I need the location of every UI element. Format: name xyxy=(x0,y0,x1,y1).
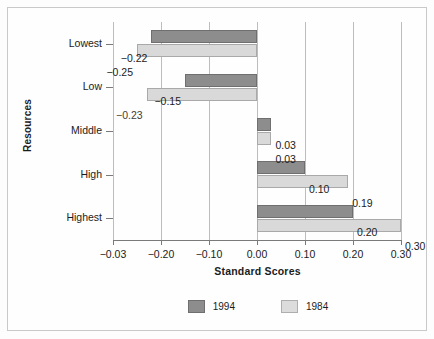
bar-1994-lowest[interactable] xyxy=(151,30,257,43)
x-gridline xyxy=(401,22,402,240)
bar-1994-middle[interactable] xyxy=(257,118,271,131)
bar-value-label-1984-high: 0.19 xyxy=(352,197,372,209)
bar-value-label-1994-highest: 0.20 xyxy=(357,226,377,238)
x-axis-tick xyxy=(353,240,354,245)
bar-value-label-1984-lowest: −0.25 xyxy=(99,66,133,78)
legend-label-1994: 1994 xyxy=(213,301,235,312)
y-axis-tick-label-highest: Highest xyxy=(30,211,102,223)
bar-value-label-1984-low: −0.23 xyxy=(109,109,143,121)
y-axis-tick-label-high: High xyxy=(30,168,102,180)
x-axis-tick xyxy=(401,240,402,245)
legend-swatch-icon-1984 xyxy=(281,300,298,313)
bar-1984-highest[interactable] xyxy=(257,219,401,232)
y-axis-tick xyxy=(106,131,113,132)
legend-swatch-icon-1994 xyxy=(188,300,205,313)
x-axis-tick xyxy=(161,240,162,245)
bar-value-label-1994-middle: 0.03 xyxy=(275,139,295,151)
y-axis-tick xyxy=(106,44,113,45)
bar-value-label-1994-low: −0.15 xyxy=(147,95,181,107)
chart-legend: 1994 1984 xyxy=(113,300,403,313)
x-axis-tick xyxy=(113,240,114,245)
bar-1984-lowest[interactable] xyxy=(137,44,257,57)
bar-value-label-1984-middle: 0.03 xyxy=(275,153,295,165)
bar-1984-middle[interactable] xyxy=(257,132,271,145)
bar-1994-highest[interactable] xyxy=(257,205,353,218)
y-axis-tick xyxy=(106,218,113,219)
y-axis-tick-label-middle: Middle xyxy=(30,124,102,136)
legend-label-1984: 1984 xyxy=(306,301,328,312)
figure-canvas: Resources Standard Scores 1994 1984 −0.0… xyxy=(0,0,434,339)
x-axis-title: Standard Scores xyxy=(113,265,402,277)
bar-value-label-1994-high: 0.10 xyxy=(309,183,329,195)
x-axis-tick xyxy=(209,240,210,245)
y-axis-tick-label-low: Low xyxy=(30,80,102,92)
x-axis-tick xyxy=(257,240,258,245)
x-axis-tick xyxy=(305,240,306,245)
y-axis-tick-label-lowest: Lowest xyxy=(30,37,102,49)
y-axis-tick xyxy=(106,87,113,88)
bar-value-label-1994-lowest: −0.22 xyxy=(113,52,147,64)
y-axis-tick xyxy=(106,175,113,176)
legend-item-1994[interactable]: 1994 xyxy=(188,300,235,313)
bar-value-label-1984-highest: 0.30 xyxy=(405,240,425,252)
legend-item-1984[interactable]: 1984 xyxy=(281,300,328,313)
bar-1994-low[interactable] xyxy=(185,74,257,87)
bar-1984-high[interactable] xyxy=(257,175,348,188)
